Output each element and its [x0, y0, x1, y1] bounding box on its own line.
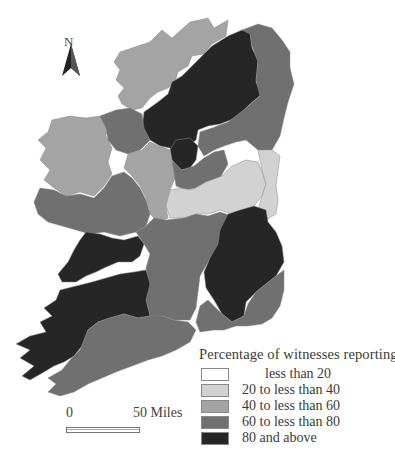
legend-label: 20 to less than 40 [242, 382, 340, 398]
scale-bar: 0 50 Miles [66, 399, 186, 439]
legend-label: 40 to less than 60 [242, 398, 340, 414]
legend-item-80plus: 80 and above [201, 432, 391, 448]
legend: Percentage of witnesses reporting less t… [199, 346, 395, 363]
legend-swatch [201, 384, 229, 397]
scale-end-label: 50 Miles [133, 405, 182, 421]
legend-label: less than 20 [265, 366, 331, 382]
scale-start-label: 0 [66, 405, 73, 421]
region-mayo [38, 116, 112, 196]
legend-swatch [201, 416, 229, 429]
scale-bar-rect [66, 427, 140, 433]
legend-title: Percentage of witnesses reporting [199, 346, 395, 363]
legend-swatch [201, 432, 229, 445]
legend-label: 60 to less than 80 [242, 414, 340, 430]
legend-swatch [201, 400, 229, 413]
north-arrow-icon [58, 32, 84, 88]
legend-swatch [201, 368, 229, 381]
legend-label: 80 and above [242, 430, 317, 446]
